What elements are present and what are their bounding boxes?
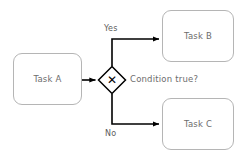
edge-label-no: No <box>105 130 116 138</box>
gateway-condition-label: Condition true? <box>130 75 198 84</box>
task-c-label: Task C <box>184 120 212 129</box>
connector-gateway-to-task-c <box>112 94 159 124</box>
exclusive-gateway-node[interactable]: ✕ <box>98 66 126 94</box>
connector-gateway-to-task-b <box>112 39 159 66</box>
task-a-label: Task A <box>33 75 61 84</box>
task-node-a[interactable]: Task A <box>13 53 82 105</box>
task-node-c[interactable]: Task C <box>162 98 234 150</box>
diagram-canvas: Task A Task B Task C ✕ Yes No Condition … <box>0 0 241 157</box>
task-b-label: Task B <box>184 32 212 41</box>
edge-label-yes: Yes <box>104 25 118 33</box>
task-node-b[interactable]: Task B <box>162 10 234 62</box>
exclusive-gateway-x-icon: ✕ <box>98 66 126 94</box>
